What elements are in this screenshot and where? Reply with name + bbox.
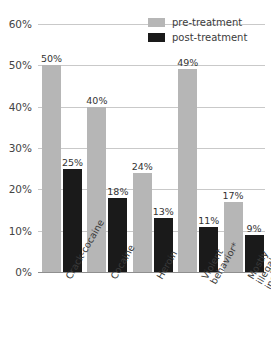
bar-value-label: 18% xyxy=(107,187,128,197)
legend-swatch-post-treatment xyxy=(148,33,165,42)
bar-value-label: 17% xyxy=(223,191,244,201)
y-axis-tick-label: 0% xyxy=(0,267,32,277)
legend-item-post-treatment: post-treatment xyxy=(148,31,247,44)
legend: pre-treatment post-treatment xyxy=(148,16,247,46)
legend-label-pre-treatment: pre-treatment xyxy=(172,17,242,28)
chart-title xyxy=(38,0,268,5)
gridline xyxy=(38,107,265,108)
y-axis-tick-label: 20% xyxy=(0,184,32,194)
bar-pre-treatment: 50% xyxy=(42,65,61,272)
gridline xyxy=(38,148,265,149)
bar-value-label: 9% xyxy=(247,224,262,234)
bar-value-label: 50% xyxy=(41,54,62,64)
bar-value-label: 24% xyxy=(132,162,153,172)
bar-pre-treatment: 49% xyxy=(178,69,197,272)
y-axis-tick-label: 10% xyxy=(0,226,32,236)
plot-area: 50%25%40%18%24%13%49%11%17%9% xyxy=(38,24,265,272)
y-axis-tick-label: 50% xyxy=(0,60,32,70)
legend-item-pre-treatment: pre-treatment xyxy=(148,16,247,29)
bar-value-label: 49% xyxy=(177,58,198,68)
y-axis-tick-label: 40% xyxy=(0,102,32,112)
bar-value-label: 25% xyxy=(62,158,83,168)
legend-label-post-treatment: post-treatment xyxy=(172,32,247,43)
bar-value-label: 11% xyxy=(198,216,219,226)
bar-pre-treatment: 24% xyxy=(133,173,152,272)
legend-swatch-pre-treatment xyxy=(148,18,165,27)
y-axis-tick-label: 60% xyxy=(0,19,32,29)
bar-value-label: 40% xyxy=(86,96,107,106)
y-axis-tick-label: 30% xyxy=(0,143,32,153)
bar-value-label: 13% xyxy=(153,207,174,217)
bar-chart: 0%10%20%30%40%50%60% 50%25%40%18%24%13%4… xyxy=(0,0,271,342)
gridline xyxy=(38,65,265,66)
